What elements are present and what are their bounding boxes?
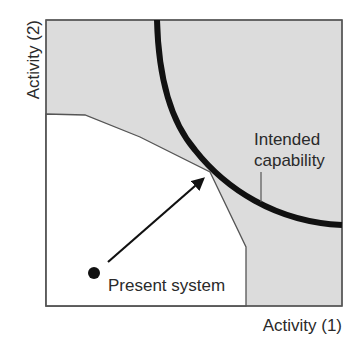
y-axis-label: Activity (2) — [24, 20, 43, 99]
present-system-dot — [88, 267, 100, 279]
x-axis-label: Activity (1) — [263, 316, 342, 335]
capability-diagram: Present system Intended capability Activ… — [0, 0, 363, 355]
present-system-label: Present system — [108, 276, 225, 295]
intended-capability-label-line1: Intended — [254, 130, 320, 149]
intended-capability-label-line2: capability — [254, 151, 325, 170]
